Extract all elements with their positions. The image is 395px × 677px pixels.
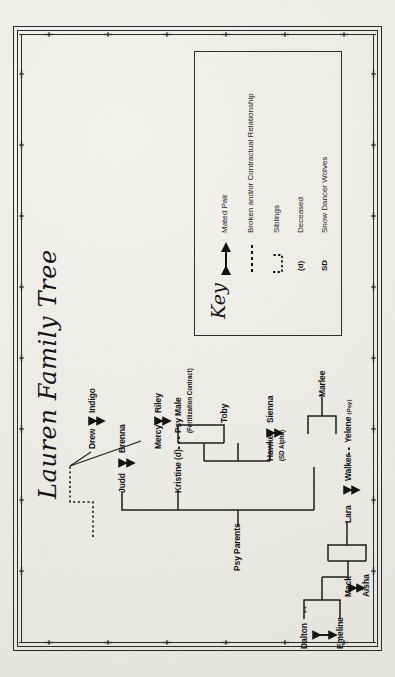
ornament-band-left bbox=[19, 34, 24, 643]
dotted-bracket-icon bbox=[269, 239, 287, 275]
key-label-deceased: Deceased bbox=[296, 197, 305, 233]
key-label-mated-pair: Mated Pair bbox=[220, 194, 229, 233]
key-heading: Key bbox=[207, 283, 229, 319]
mated-pair-arrow-icon bbox=[217, 239, 235, 275]
key-tag-snow-dancer: SD bbox=[320, 260, 329, 271]
dashed-line-icon bbox=[243, 239, 261, 275]
key-legend-box: Key Mated Pair Broken and/or Contractual… bbox=[194, 51, 342, 336]
paper-background: Lauren Family Tree Psy Parents Dalton ↔ … bbox=[0, 0, 395, 677]
family-tree-content: Lauren Family Tree Psy Parents Dalton ↔ … bbox=[28, 28, 367, 649]
key-label-broken-relationship: Broken and/or Contractual Relationship bbox=[246, 93, 255, 233]
key-label-snow-dancer: Snow Dancer Wolves bbox=[320, 157, 329, 233]
ornament-band-right bbox=[371, 34, 376, 643]
key-tag-deceased: (d) bbox=[296, 261, 305, 271]
key-label-siblings: Siblings bbox=[272, 205, 281, 233]
